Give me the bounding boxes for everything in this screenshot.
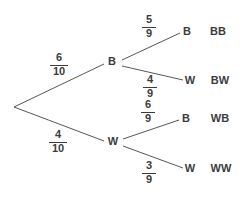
probability-fraction-w-to-wb: 6 9 (141, 98, 155, 124)
probability-fraction-w-to-ww: 3 9 (142, 159, 156, 185)
node-label-level2-ww: W (185, 162, 196, 174)
outcome-label-wb: WB (211, 112, 229, 124)
fraction-denominator: 10 (53, 65, 65, 77)
node-label-level1-b: B (108, 55, 116, 67)
fraction-denominator: 9 (146, 173, 152, 185)
branch-line-w-to-ww (123, 146, 183, 168)
fraction-numerator: 4 (147, 73, 154, 85)
fraction-numerator: 5 (146, 13, 152, 25)
outcome-label-bw: BW (211, 74, 230, 86)
fraction-numerator: 6 (56, 51, 62, 63)
probability-fraction-root-to-b: 6 10 (50, 51, 68, 77)
fraction-numerator: 6 (145, 98, 151, 110)
probability-fraction-b-to-bb: 5 9 (142, 13, 156, 39)
outcome-label-ww: WW (211, 162, 232, 174)
tree-diagram-canvas: B W B W B W BB BW WB WW 6 10 4 10 5 9 (0, 0, 250, 197)
fraction-numerator: 4 (55, 128, 62, 140)
branch-group-level2 (122, 33, 183, 168)
outcome-label-bb: BB (210, 25, 226, 37)
node-label-level2-wb: B (182, 112, 190, 124)
node-label-level2-bw: W (185, 74, 196, 86)
fraction-denominator: 9 (145, 112, 151, 124)
node-label-level1-w: W (108, 135, 119, 147)
fraction-denominator: 9 (146, 27, 152, 39)
fraction-denominator: 10 (52, 142, 64, 154)
probability-fraction-b-to-bw: 4 9 (143, 73, 157, 99)
node-label-level2-bb: B (183, 25, 191, 37)
probability-tree-diagram: B W B W B W BB BW WB WW 6 10 4 10 5 9 (0, 0, 250, 197)
probability-fraction-root-to-w: 4 10 (49, 128, 67, 154)
fraction-numerator: 3 (146, 159, 152, 171)
